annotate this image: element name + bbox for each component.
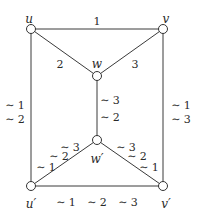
edge-label: ∼ 3 [100,94,120,107]
edge-label: ∼ 2 [87,196,107,209]
edge-label: 3 [132,58,139,71]
node-label-w_prime: w′ [91,152,104,166]
edge-label: ∼ 1 [36,161,56,174]
node-u [27,25,36,34]
edge-label: ∼ 3 [171,113,191,126]
edge-label: 2 [57,58,64,71]
node-label-w: w [92,57,103,71]
edge-label: ∼ 1 [171,99,191,112]
edge-label: ∼ 1 [139,161,159,174]
edge-v-w [97,29,163,76]
node-label-u_prime: u′ [26,197,37,211]
edge-u-w [31,29,97,76]
node-w [93,72,102,81]
edge-label: ∼ 2 [5,113,25,126]
node-label-v: v [163,12,170,26]
edge-label: ∼ 1 [56,196,76,209]
node-v_prime [159,182,168,191]
node-w_prime [93,136,102,145]
node-label-v_prime: v′ [161,197,171,211]
node-u_prime [27,182,36,191]
edge-label: 1 [94,15,101,28]
node-labels-layer: uvww′u′v′ [25,12,171,211]
edge-label: ∼ 2 [100,111,120,124]
node-v [159,25,168,34]
graph-diagram: 123∼ 3∼ 2∼ 1∼ 2∼ 1∼ 3∼ 3∼ 2∼ 1∼ 3∼ 2∼ 1∼… [0,0,199,215]
edge-label: ∼ 1 [5,99,25,112]
edge-label: ∼ 3 [118,196,138,209]
node-label-u: u [25,12,33,26]
